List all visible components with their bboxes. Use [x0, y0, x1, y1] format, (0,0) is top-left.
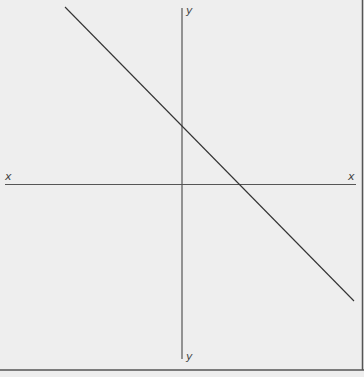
x-axis-label-left: x	[4, 170, 12, 183]
y-axis-label-bottom: y	[185, 350, 193, 363]
diagram-frame: x x y y	[0, 0, 364, 377]
y-axis-label-top: y	[185, 4, 193, 17]
plotted-line	[65, 7, 354, 301]
coordinate-plane: x x y y	[0, 0, 364, 377]
x-axis-label-right: x	[347, 170, 355, 183]
